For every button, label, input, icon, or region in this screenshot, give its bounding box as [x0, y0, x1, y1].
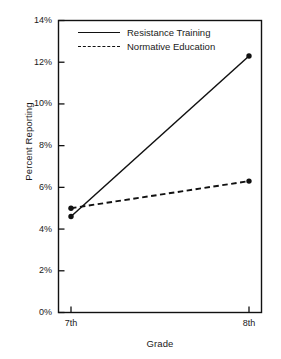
chart-legend: Resistance Training Normative Education: [78, 26, 215, 54]
line-chart-figure: 0%2%4%6%8%10%12%14% 7th8th Percent Repor…: [0, 0, 281, 359]
data-series-group: [68, 53, 251, 219]
y-axis-title: Percent Reporting: [23, 62, 34, 222]
x-axis-title: Grade: [58, 338, 262, 349]
y-axis-tick-labels: 0%2%4%6%8%10%12%14%: [16, 0, 52, 359]
y-axis-tick-label: 0%: [18, 308, 52, 317]
axis-frame: [59, 21, 262, 313]
legend-entry-resistance-training: Resistance Training: [78, 26, 215, 40]
legend-line-sample-solid-icon: [78, 28, 120, 38]
x-axis-tick-label: 8th: [243, 319, 256, 328]
legend-label: Normative Education: [120, 42, 215, 52]
y-axis-tick-label: 2%: [18, 266, 52, 275]
y-axis-tick-label: 4%: [18, 225, 52, 234]
data-point-marker: [246, 178, 251, 183]
legend-entry-normative-education: Normative Education: [78, 40, 215, 54]
x-axis-tick-label: 7th: [65, 319, 78, 328]
series-line: [71, 181, 249, 208]
legend-line-sample-dashed-icon: [78, 42, 120, 52]
data-point-marker: [68, 206, 73, 211]
data-point-marker: [246, 53, 251, 58]
y-axis-tick-label: 14%: [18, 16, 52, 25]
axis-ticks: [59, 21, 250, 313]
data-point-marker: [68, 214, 73, 219]
legend-label: Resistance Training: [120, 28, 210, 38]
series-line: [71, 56, 249, 217]
